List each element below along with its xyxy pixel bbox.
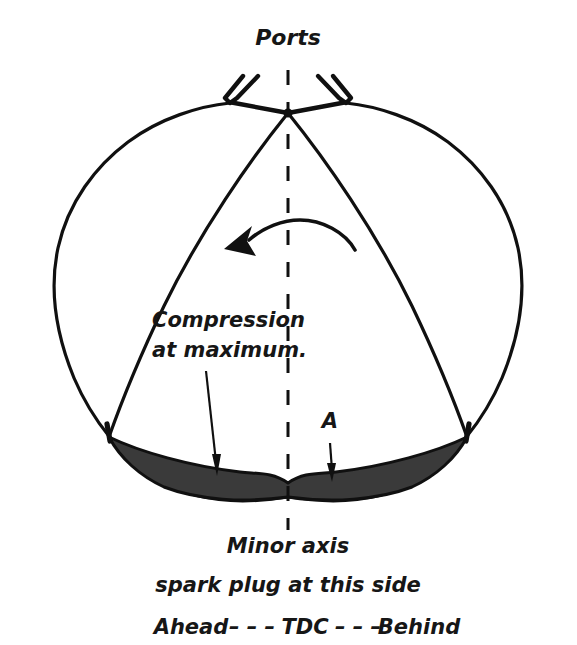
ports-title: Ports (255, 25, 321, 50)
compression-label-line1: Compression (152, 308, 305, 332)
rotor-flank-right (288, 113, 467, 437)
caption-ahead: Ahead (152, 615, 230, 639)
caption-spark-plug: spark plug at this side (155, 573, 420, 597)
rotor-flank-left (109, 113, 288, 437)
apex-seal-right (466, 424, 469, 441)
point-a-label: A (320, 409, 338, 433)
compression-leader-line (206, 371, 216, 462)
apex-seal-left (107, 424, 110, 441)
diagram-canvas: Ports Compression (0, 0, 577, 645)
caption-behind: Behind (378, 615, 461, 639)
caption-dash-right: – – – (335, 615, 381, 639)
rotation-arrowhead (224, 226, 256, 256)
rotation-arc (249, 220, 355, 250)
housing-outline-left (54, 103, 288, 501)
caption-minor-axis: Minor axis (227, 534, 350, 558)
caption-tdc: TDC (281, 615, 329, 639)
port-inner-right (288, 76, 351, 113)
port-inner-left (225, 76, 288, 113)
compression-label-line2: at maximum. (152, 338, 307, 362)
rotary-engine-diagram: Ports Compression (0, 0, 577, 645)
caption-dash-left: – – – (229, 615, 275, 639)
housing-outline-right (288, 103, 522, 501)
